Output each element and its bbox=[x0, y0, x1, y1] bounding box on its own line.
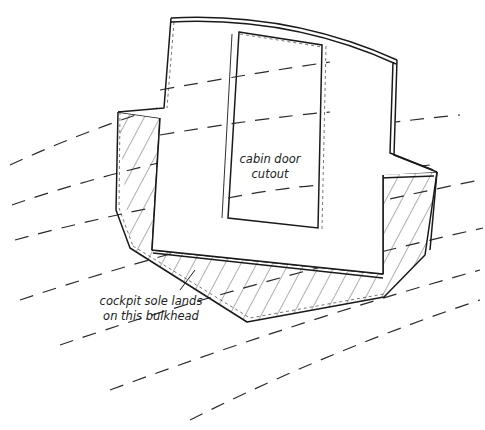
cockpit-sole-label: cockpit sole lands on this bulkhead bbox=[96, 294, 206, 324]
door-cutout-label-line1: cabin door bbox=[228, 152, 312, 167]
cockpit-sole-label-line2: on this bulkhead bbox=[96, 309, 206, 324]
cockpit-sole-label-line1: cockpit sole lands bbox=[96, 294, 206, 309]
bulkhead-diagram bbox=[0, 0, 485, 430]
door-cutout-label-line2: cutout bbox=[228, 167, 312, 182]
door-cutout-label: cabin door cutout bbox=[228, 152, 312, 182]
